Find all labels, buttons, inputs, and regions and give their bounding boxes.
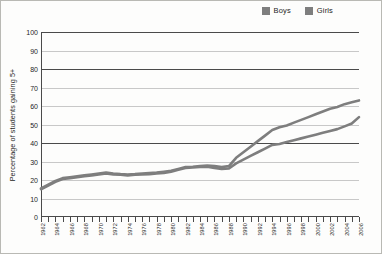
- x-axis-tick: [236, 217, 237, 222]
- x-axis-tick: [135, 217, 136, 222]
- x-axis-tick-label: 1992: [257, 223, 263, 236]
- x-axis-tick-label: 1984: [199, 223, 205, 236]
- x-axis-tick: [222, 217, 223, 222]
- x-axis-tick: [359, 217, 360, 222]
- x-axis-tick-label: 2006: [358, 223, 364, 236]
- x-axis-tick: [128, 217, 129, 222]
- x-axis-tick: [200, 217, 201, 222]
- x-axis-tick: [243, 217, 244, 222]
- x-axis-tick: [113, 217, 114, 222]
- legend-label: Girls: [317, 7, 333, 15]
- x-axis-tick: [99, 217, 100, 222]
- x-axis-tick: [157, 217, 158, 222]
- x-axis-tick-label: 1974: [127, 223, 133, 236]
- x-axis-tick: [214, 217, 215, 222]
- x-axis-tick-label: 1990: [242, 223, 248, 236]
- x-axis-tick-label: 1968: [83, 223, 89, 236]
- x-axis-tick-label: 2004: [344, 223, 350, 236]
- x-axis-tick: [164, 217, 165, 222]
- x-axis-tick: [316, 217, 317, 222]
- x-axis-tick: [251, 217, 252, 222]
- x-axis-tick-label: 1964: [54, 223, 60, 236]
- y-axis-tick-label: 0: [34, 214, 38, 221]
- legend-label: Boys: [274, 7, 291, 15]
- legend-entry[interactable]: Girls: [305, 7, 333, 15]
- x-axis-tick-label: 1986: [213, 223, 219, 236]
- x-axis-tick: [106, 217, 107, 222]
- x-axis-tick: [287, 217, 288, 222]
- x-axis-tick: [149, 217, 150, 222]
- x-axis-tick: [280, 217, 281, 222]
- series-line-boys: [41, 117, 359, 189]
- x-axis-tick: [186, 217, 187, 222]
- x-axis-tick-label: 1988: [228, 223, 234, 236]
- x-axis-tick: [207, 217, 208, 222]
- x-axis-tick-label: 1966: [69, 223, 75, 236]
- x-axis-tick: [121, 217, 122, 222]
- x-axis-tick: [345, 217, 346, 222]
- x-axis-tick-label: 1998: [300, 223, 306, 236]
- legend-entry[interactable]: Boys: [262, 7, 291, 15]
- x-axis-tick: [63, 217, 64, 222]
- x-axis-tick-label: 1994: [271, 223, 277, 236]
- x-axis-tick: [337, 217, 338, 222]
- x-axis-tick: [258, 217, 259, 222]
- x-axis-tick-label: 1978: [156, 223, 162, 236]
- x-axis-labels: 1962196419661968197019721974197619781980…: [41, 223, 359, 251]
- legend-swatch-girls: [305, 7, 313, 15]
- series-layer: [41, 32, 359, 217]
- plot-area: 0102030405060708090100: [41, 32, 359, 217]
- x-axis-tick-label: 2002: [329, 223, 335, 236]
- x-axis-tick: [178, 217, 179, 222]
- x-axis-tick: [193, 217, 194, 222]
- y-axis-tick-label: 30: [30, 158, 38, 165]
- y-axis-tick-label: 40: [30, 140, 38, 147]
- y-axis-tick-label: 10: [30, 195, 38, 202]
- y-axis-tick-label: 90: [30, 47, 38, 54]
- y-axis-tick-label: 50: [30, 121, 38, 128]
- chart-figure: BoysGirls Percentage of students gaining…: [0, 0, 382, 254]
- y-axis-tick-label: 100: [26, 29, 38, 36]
- x-axis-tick: [265, 217, 266, 222]
- x-axis-tick: [77, 217, 78, 222]
- x-axis-tick: [294, 217, 295, 222]
- series-line-girls: [41, 100, 359, 188]
- x-axis-tick: [272, 217, 273, 222]
- chart-legend: BoysGirls: [262, 7, 333, 15]
- y-axis-title: Percentage of students gaining 5+: [6, 32, 18, 218]
- x-axis-tick: [92, 217, 93, 222]
- x-axis-tick: [48, 217, 49, 222]
- x-axis-tick-label: 1972: [112, 223, 118, 236]
- x-axis-tick-label: 1970: [98, 223, 104, 236]
- y-axis-tick-label: 20: [30, 177, 38, 184]
- y-axis-tick-label: 60: [30, 103, 38, 110]
- legend-swatch-boys: [262, 7, 270, 15]
- x-axis-tick: [352, 217, 353, 222]
- x-axis-tick: [41, 217, 42, 222]
- x-axis-tick-label: 1996: [286, 223, 292, 236]
- x-axis-tick: [55, 217, 56, 222]
- x-axis-tick: [171, 217, 172, 222]
- x-axis-tick: [84, 217, 85, 222]
- x-axis-tick: [142, 217, 143, 222]
- x-axis-tick: [70, 217, 71, 222]
- y-axis-tick-label: 70: [30, 84, 38, 91]
- x-axis-tick-label: 1976: [141, 223, 147, 236]
- x-axis-tick-label: 2000: [315, 223, 321, 236]
- x-axis-tick: [301, 217, 302, 222]
- x-axis-tick: [323, 217, 324, 222]
- x-axis-tick: [330, 217, 331, 222]
- x-axis-tick: [229, 217, 230, 222]
- x-axis-tick: [308, 217, 309, 222]
- x-axis-tick-label: 1982: [185, 223, 191, 236]
- x-axis-tick-label: 1962: [40, 223, 46, 236]
- y-axis-tick-label: 80: [30, 66, 38, 73]
- x-axis-tick-label: 1980: [170, 223, 176, 236]
